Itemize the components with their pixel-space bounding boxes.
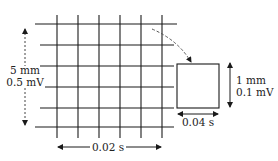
large-box-height-label: 5 mm: [10, 64, 40, 76]
large-grid: [35, 15, 177, 138]
large-box-voltage-label: 0.5 mV: [6, 76, 44, 88]
ecg-grid-diagram: 5 mm 0.5 mV 0.02 s 1 mm 0.1 mV 0.04 s: [0, 0, 278, 161]
small-box-time-label: 0.04 s: [182, 116, 214, 128]
small-box-voltage-label: 0.1 mV: [236, 86, 274, 98]
small-box: [177, 64, 219, 108]
large-box-time-label: 0.02 s: [92, 141, 124, 153]
small-box-height-label: 1 mm: [236, 74, 266, 86]
